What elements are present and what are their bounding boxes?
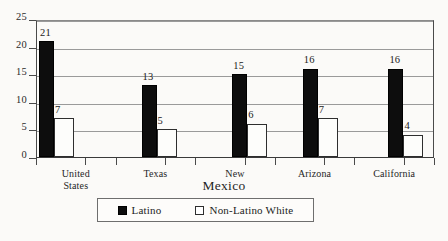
bar-latino [303, 69, 318, 157]
bar-latino [142, 85, 157, 157]
hollow-square-icon [195, 206, 204, 215]
x-axis-tick-mark [195, 158, 196, 165]
bar-group: 217 [37, 21, 117, 157]
bar-latino [388, 69, 403, 157]
y-axis-tick-mark [29, 158, 36, 159]
bar-value-label-non-latino-white: 5 [158, 116, 163, 127]
x-axis-category-label-line1: California [373, 168, 415, 179]
x-axis-tick-mark [324, 158, 325, 165]
chart-legend: Latino Non-Latino White [97, 198, 314, 222]
bar-value-label-latino: 16 [389, 55, 400, 66]
legend-item-latino: Latino [118, 205, 162, 216]
x-axis-tick-mark [36, 158, 37, 165]
filled-square-icon [118, 206, 127, 215]
bar-value-label-latino: 15 [233, 61, 244, 72]
bar-value-label-non-latino-white: 6 [248, 110, 253, 121]
y-axis-tick-label: 10 [16, 95, 27, 106]
x-axis-tick-mark [165, 158, 166, 165]
bar-group: 135 [117, 21, 197, 157]
bar-group: 164 [355, 21, 435, 157]
x-axis-tick-mark [245, 158, 246, 165]
x-axis-tick-mark [354, 158, 355, 165]
x-axis-tick-mark [85, 158, 86, 165]
y-axis-tick-label: 25 [16, 12, 27, 23]
bar-value-label-non-latino-white: 7 [319, 105, 324, 116]
y-axis-tick-mark [29, 20, 36, 21]
x-axis-category-label: California [354, 168, 434, 180]
y-axis-tick-mark [29, 103, 36, 104]
bar-non-latino-white [54, 118, 74, 157]
legend-label-non-latino-white: Non-Latino White [209, 205, 293, 216]
bar-value-label-non-latino-white: 4 [404, 121, 409, 132]
y-axis-tick-label: 0 [22, 150, 27, 161]
bar-non-latino-white [157, 129, 177, 157]
bar-non-latino-white [403, 135, 423, 157]
bar-non-latino-white [318, 118, 338, 157]
x-axis-category-label-line1: Texas [143, 168, 167, 179]
bar-latino [39, 41, 54, 157]
x-axis-tick-mark [116, 158, 117, 165]
x-axis-tick-mark [275, 158, 276, 165]
x-axis-category-label: Texas [116, 168, 196, 180]
bar-group: 156 [196, 21, 276, 157]
bar-group: 167 [276, 21, 356, 157]
x-axis-category-label: Arizona [275, 168, 355, 180]
y-axis-tick-mark [29, 75, 36, 76]
x-axis-category-label-line1: United [62, 168, 90, 179]
bar-value-label-latino: 16 [304, 55, 315, 66]
legend-label-latino: Latino [132, 205, 162, 216]
bar-value-label-latino: 13 [143, 72, 154, 83]
bar-non-latino-white [247, 124, 267, 157]
bar-value-label-latino: 21 [40, 28, 51, 39]
bar-chart: 0510152025 217135156167164 UnitedStatesT… [0, 0, 448, 241]
y-axis-tick-label: 15 [16, 67, 27, 78]
y-axis-tick-mark [29, 130, 36, 131]
y-axis-tick-mark [29, 48, 36, 49]
legend-item-non-latino-white: Non-Latino White [195, 205, 293, 216]
x-axis-title: Mexico [0, 179, 448, 193]
y-axis-tick-label: 20 [16, 40, 27, 51]
x-axis-tick-mark [434, 158, 435, 165]
x-axis-category-label-line1: Arizona [298, 168, 331, 179]
bar-value-label-non-latino-white: 7 [55, 105, 60, 116]
y-axis-tick-label: 5 [22, 122, 27, 133]
x-axis-tick-mark [404, 158, 405, 165]
bar-latino [232, 74, 247, 157]
plot-area: 217135156167164 [36, 20, 434, 158]
